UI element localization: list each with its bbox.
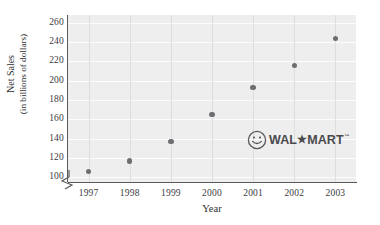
x-tick-label: 1997	[67, 188, 111, 198]
y-tick-label: 100	[18, 172, 64, 182]
gridline-vertical	[294, 15, 295, 182]
data-point	[292, 63, 297, 68]
scatter-chart: 100120140160180200220240260 Net Sales (i…	[0, 0, 380, 225]
trademark-icon: ™	[344, 133, 349, 139]
x-tick-label: 2003	[313, 188, 357, 198]
walmart-logo: WAL★MART™	[247, 129, 349, 151]
walmart-word-mart: MART	[307, 133, 344, 147]
walmart-wordmark: WAL★MART™	[269, 133, 349, 147]
x-tick-label: 1999	[149, 188, 193, 198]
x-tick-label: 2002	[272, 188, 316, 198]
x-axis-label: Year	[68, 203, 356, 214]
y-tick-label: 140	[18, 134, 64, 144]
y-axis-label: Net Sales (in billions of dollars)	[5, 14, 29, 134]
gridline-vertical	[253, 15, 254, 182]
data-point	[168, 139, 173, 144]
y-tick-label: 120	[18, 153, 64, 163]
x-axis-line	[68, 182, 357, 183]
data-point	[250, 85, 255, 90]
x-tick-label: 2001	[231, 188, 275, 198]
gridline-vertical	[212, 15, 213, 182]
x-tick-label: 1998	[108, 188, 152, 198]
plot-area	[68, 15, 356, 182]
data-point	[127, 158, 132, 163]
x-tick-label: 2000	[190, 188, 234, 198]
gridline-vertical	[130, 15, 131, 182]
gridline-vertical	[89, 15, 90, 182]
smiley-face-icon	[247, 130, 267, 150]
gridline-vertical	[171, 15, 172, 182]
data-point	[333, 36, 338, 41]
walmart-word-wal: WAL	[269, 133, 297, 147]
data-point	[209, 112, 214, 117]
y-axis-label-line2: (in billions of dollars)	[17, 14, 29, 134]
y-axis-line	[67, 15, 68, 182]
walmart-star-icon: ★	[297, 133, 307, 145]
y-axis-label-line1: Net Sales	[5, 14, 17, 134]
